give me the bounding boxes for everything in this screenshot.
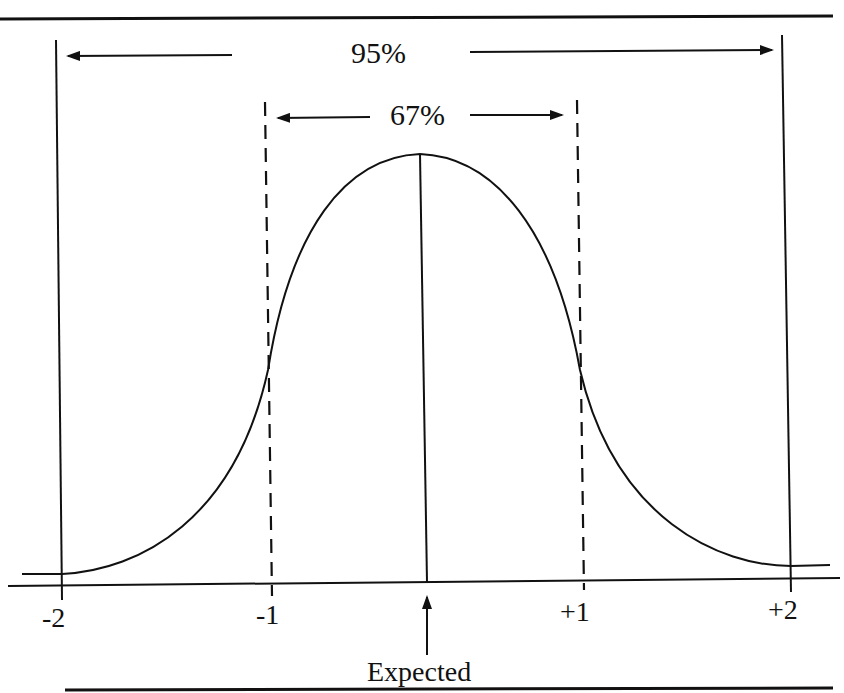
tick-plus-2: +2 xyxy=(768,594,798,625)
bottom-rule xyxy=(65,688,833,690)
expected-label: Expected xyxy=(367,656,471,687)
arrow-67-left xyxy=(278,117,370,118)
plus-1-dashed-line xyxy=(577,100,584,590)
minus-2-line xyxy=(56,40,62,600)
top-rule xyxy=(0,16,833,19)
arrow-95-right xyxy=(470,50,772,52)
label-67-percent: 67% xyxy=(390,98,445,131)
arrow-95-left xyxy=(68,55,232,56)
tick-minus-1: -1 xyxy=(256,599,279,630)
normal-distribution-diagram: 95% 67% -2 -1 +1 +2 Expected xyxy=(0,0,844,693)
expected-center-line xyxy=(420,154,427,582)
plus-2-line xyxy=(782,35,791,592)
tick-minus-2: -2 xyxy=(42,602,65,633)
label-95-percent: 95% xyxy=(351,36,406,69)
tick-plus-1: +1 xyxy=(560,596,590,627)
x-axis xyxy=(8,578,840,586)
